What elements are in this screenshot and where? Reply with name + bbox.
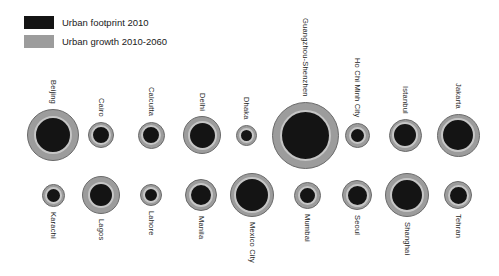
- footprint-bubble-delhi: [188, 121, 217, 150]
- footprint-bubble-tehran: [448, 185, 469, 206]
- city-label-manila: Manila: [197, 216, 206, 239]
- growth-bubble-jakarta: [437, 114, 480, 157]
- footprint-bubble-seoul: [346, 184, 369, 207]
- footprint-bubble-shanghai: [390, 178, 424, 212]
- city-label-lagos: Lagos: [97, 219, 106, 240]
- legend: Urban footprint 2010 Urban growth 2010-2…: [24, 16, 167, 48]
- city-label-karachi: Karachi: [49, 212, 58, 239]
- growth-bubble-tehran: [444, 181, 472, 209]
- city-label-mexico-city: Mexico City: [248, 222, 257, 263]
- growth-bubble-beijing: [27, 109, 79, 161]
- growth-bubble-karachi: [42, 184, 65, 207]
- city-label-guangzhou-shenzhen: Guangzhou-Shenzhen: [301, 18, 310, 97]
- growth-bubble-cairo: [88, 122, 114, 148]
- city-label-lahore: Lahore: [147, 211, 156, 236]
- footprint-bubble-istanbul: [392, 122, 418, 148]
- city-label-seoul: Seoul: [353, 215, 362, 235]
- footprint-bubble-calcutta: [141, 125, 161, 145]
- legend-item-growth: Urban growth 2010-2060: [24, 35, 167, 48]
- growth-bubble-seoul: [342, 180, 372, 210]
- growth-bubble-mumbai: [294, 182, 321, 209]
- footprint-bubble-ho-chi-minh-city: [349, 127, 366, 144]
- city-label-tehran: Tehran: [454, 214, 463, 238]
- growth-bubble-shanghai: [385, 173, 429, 217]
- growth-bubble-istanbul: [389, 119, 422, 152]
- city-label-mumbai: Mumbai: [303, 214, 312, 242]
- city-label-jakarta: Jakarta: [454, 83, 463, 109]
- legend-swatch-growth: [24, 35, 54, 48]
- city-label-shanghai: Shanghai: [403, 222, 412, 255]
- growth-bubble-manila: [185, 179, 217, 211]
- city-label-beijing: Beijing: [49, 80, 58, 104]
- legend-label-growth: Urban growth 2010-2060: [62, 36, 167, 47]
- footprint-bubble-lahore: [143, 187, 159, 203]
- bubble-chart-canvas: Urban footprint 2010 Urban growth 2010-2…: [0, 0, 499, 276]
- growth-bubble-ho-chi-minh-city: [345, 123, 370, 148]
- footprint-bubble-mexico-city: [234, 177, 270, 213]
- city-label-delhi: Delhi: [198, 93, 207, 111]
- growth-bubble-lagos: [82, 176, 120, 214]
- footprint-bubble-karachi: [45, 187, 62, 204]
- city-label-cairo: Cairo: [97, 98, 106, 117]
- footprint-bubble-lagos: [88, 182, 114, 208]
- growth-bubble-delhi: [183, 116, 221, 154]
- footprint-bubble-dhaka: [239, 128, 254, 143]
- growth-bubble-dhaka: [236, 125, 257, 146]
- footprint-bubble-beijing: [34, 116, 72, 154]
- city-label-ho-chi-minh-city: Ho Chi Minh City: [353, 58, 362, 117]
- legend-item-footprint: Urban footprint 2010: [24, 16, 167, 29]
- legend-label-footprint: Urban footprint 2010: [62, 17, 149, 28]
- city-label-dhaka: Dhaka: [242, 97, 251, 120]
- growth-bubble-lahore: [140, 184, 162, 206]
- footprint-bubble-jakarta: [441, 118, 475, 152]
- growth-bubble-mexico-city: [230, 173, 274, 217]
- city-label-istanbul: Istanbul: [401, 86, 410, 114]
- footprint-bubble-mumbai: [298, 186, 317, 205]
- footprint-bubble-cairo: [91, 125, 111, 145]
- growth-bubble-calcutta: [138, 122, 165, 149]
- footprint-bubble-guangzhou-shenzhen: [280, 110, 331, 161]
- growth-bubble-guangzhou-shenzhen: [272, 102, 339, 169]
- legend-swatch-footprint: [24, 16, 54, 29]
- footprint-bubble-manila: [189, 183, 213, 207]
- city-label-calcutta: Calcutta: [147, 87, 156, 116]
